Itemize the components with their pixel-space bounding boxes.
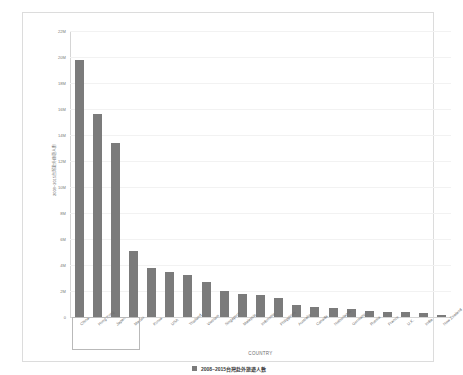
y-axis-tick-label: 14M bbox=[58, 133, 66, 138]
bar[interactable] bbox=[165, 272, 174, 318]
bar-slot[interactable] bbox=[161, 31, 179, 317]
y-axis-title: 2008~2015台灣赴外旅遊人數 bbox=[51, 144, 57, 196]
legend-swatch-icon bbox=[192, 366, 197, 371]
legend-label: 2008~2015台灣赴外旅遊人數 bbox=[201, 365, 266, 372]
bar[interactable] bbox=[419, 313, 428, 317]
bar[interactable] bbox=[401, 312, 410, 317]
x-label-slot[interactable]: Korea bbox=[143, 319, 161, 351]
x-label-slot[interactable]: Singapore bbox=[215, 319, 233, 351]
x-label-slot[interactable]: USA bbox=[161, 319, 179, 351]
bar[interactable] bbox=[93, 114, 102, 317]
y-axis-tick-label: 6M bbox=[60, 237, 66, 242]
x-label-slot[interactable]: India bbox=[415, 319, 433, 351]
bar-slot[interactable] bbox=[306, 31, 324, 317]
y-axis-tick-label: 8M bbox=[60, 211, 66, 216]
y-axis-tick-label: 16M bbox=[58, 107, 66, 112]
x-label-slot[interactable]: Netherlands bbox=[324, 319, 342, 351]
bar-slot[interactable] bbox=[106, 31, 124, 317]
bar-slot[interactable] bbox=[233, 31, 251, 317]
bar[interactable] bbox=[329, 308, 338, 317]
x-label-slot[interactable]: Australia bbox=[288, 319, 306, 351]
x-axis-tick-label[interactable]: U.K. bbox=[405, 318, 414, 327]
bar-slot[interactable] bbox=[378, 31, 396, 317]
y-axis-tick-label: 10M bbox=[58, 185, 66, 190]
x-label-slot[interactable]: Russia bbox=[360, 319, 378, 351]
x-label-slot[interactable]: Vietnam bbox=[197, 319, 215, 351]
bar-slot[interactable] bbox=[288, 31, 306, 317]
x-label-slot[interactable]: Philippines bbox=[270, 319, 288, 351]
x-label-slot[interactable]: Indonesia bbox=[251, 319, 269, 351]
bar-slot[interactable] bbox=[342, 31, 360, 317]
plot-area: 02M4M6M8M10M12M14M16M18M20M22M bbox=[70, 31, 451, 317]
x-label-slot[interactable]: Malaysia bbox=[233, 319, 251, 351]
y-axis-tick-label: 18M bbox=[58, 81, 66, 86]
y-axis-tick-label: 4M bbox=[60, 263, 66, 268]
bar[interactable] bbox=[365, 311, 374, 317]
x-label-slot[interactable]: France bbox=[378, 319, 396, 351]
y-axis-tick-label: 2M bbox=[60, 289, 66, 294]
x-axis-tick-label[interactable]: USA bbox=[170, 317, 179, 326]
bar-slot[interactable] bbox=[70, 31, 88, 317]
bar-series bbox=[70, 31, 451, 317]
bar[interactable] bbox=[220, 291, 229, 317]
bar-slot[interactable] bbox=[215, 31, 233, 317]
chart-card: 2008~2015台灣赴外旅遊人數 02M4M6M8M10M12M14M16M1… bbox=[22, 12, 434, 362]
legend: 2008~2015台灣赴外旅遊人數 bbox=[23, 365, 435, 372]
bar-slot[interactable] bbox=[270, 31, 288, 317]
y-axis-tick-label: 0 bbox=[64, 315, 66, 320]
bar-slot[interactable] bbox=[433, 31, 451, 317]
y-axis-tick-label: 22M bbox=[58, 29, 66, 34]
bar[interactable] bbox=[111, 143, 120, 317]
bar-slot[interactable] bbox=[415, 31, 433, 317]
bar[interactable] bbox=[437, 315, 446, 317]
bar-slot[interactable] bbox=[324, 31, 342, 317]
x-axis-title: COUNTRY bbox=[70, 351, 451, 356]
bar[interactable] bbox=[147, 268, 156, 317]
bar-slot[interactable] bbox=[251, 31, 269, 317]
x-label-slot[interactable]: Thailand bbox=[179, 319, 197, 351]
bar-slot[interactable] bbox=[197, 31, 215, 317]
bar-slot[interactable] bbox=[179, 31, 197, 317]
bar-slot[interactable] bbox=[124, 31, 142, 317]
x-label-slot[interactable]: U.K. bbox=[397, 319, 415, 351]
y-axis-tick-label: 12M bbox=[58, 159, 66, 164]
bar-slot[interactable] bbox=[143, 31, 161, 317]
plot-inner: 02M4M6M8M10M12M14M16M18M20M22M bbox=[70, 31, 451, 317]
y-axis-tick-label: 20M bbox=[58, 55, 66, 60]
bar-slot[interactable] bbox=[88, 31, 106, 317]
bar-slot[interactable] bbox=[360, 31, 378, 317]
selection-rectangle[interactable] bbox=[72, 317, 140, 350]
bar-slot[interactable] bbox=[397, 31, 415, 317]
bar[interactable] bbox=[129, 251, 138, 317]
x-label-slot[interactable]: New Zealand bbox=[433, 319, 451, 351]
bar[interactable] bbox=[183, 275, 192, 317]
bar[interactable] bbox=[383, 312, 392, 317]
bar[interactable] bbox=[75, 60, 84, 317]
bar[interactable] bbox=[256, 295, 265, 317]
bar[interactable] bbox=[202, 282, 211, 317]
x-label-slot[interactable]: Canada bbox=[306, 319, 324, 351]
x-label-slot[interactable]: Germany bbox=[342, 319, 360, 351]
